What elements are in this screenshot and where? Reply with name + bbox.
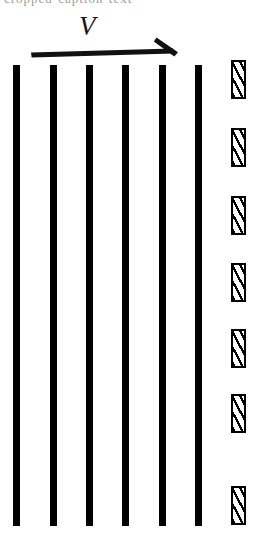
hatched-block [231,128,246,167]
hatched-block [231,486,246,525]
vertical-bar [159,65,166,526]
vertical-bar [195,65,202,526]
velocity-arrow [30,36,180,60]
hatched-block [231,196,246,235]
figure-canvas: cropped-caption-text V [0,0,262,552]
cropped-caption-text: cropped-caption-text [4,0,132,6]
vertical-bar [50,65,57,526]
velocity-arrow-glyph [30,36,180,60]
hatched-block [231,329,246,368]
vertical-bar [13,65,20,526]
hatched-block [231,60,246,99]
hatched-block [231,263,246,302]
cropped-caption-sliver: cropped-caption-text [0,0,262,6]
hatched-block [231,394,246,433]
vertical-bar [86,65,93,526]
vertical-bar [122,65,129,526]
